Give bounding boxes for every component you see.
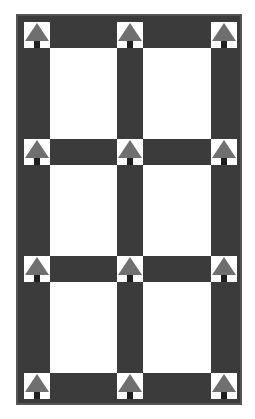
arrow-marker-icon: [24, 373, 50, 399]
arrow-marker-icon: [117, 373, 143, 399]
arrow-marker-icon: [117, 139, 143, 165]
arrow-marker-icon: [211, 139, 237, 165]
pane-r2c1: [50, 165, 117, 256]
pane-r1c1: [50, 48, 117, 139]
arrow-marker-icon: [211, 373, 237, 399]
arrow-marker-icon: [117, 256, 143, 282]
arrow-marker-icon: [117, 22, 143, 48]
pane-r1c2: [143, 48, 211, 139]
arrow-marker-icon: [211, 256, 237, 282]
pane-r3c2: [143, 282, 211, 373]
arrow-marker-icon: [24, 256, 50, 282]
arrow-marker-icon: [211, 22, 237, 48]
pane-r2c2: [143, 165, 211, 256]
arrow-marker-icon: [24, 22, 50, 48]
arrow-marker-icon: [24, 139, 50, 165]
pane-r3c1: [50, 282, 117, 373]
